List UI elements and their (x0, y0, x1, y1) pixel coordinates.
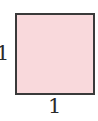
left-side-length-label: 1 (0, 43, 9, 64)
bottom-side-length-label: 1 (48, 96, 61, 117)
unit-square (15, 13, 95, 95)
